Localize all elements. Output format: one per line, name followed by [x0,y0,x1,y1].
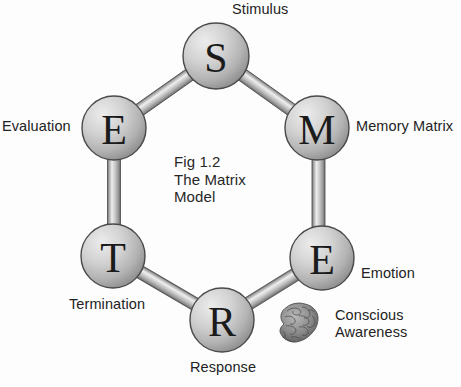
node-letter-stimulus: S [204,35,227,81]
annotation-label-awareness: Awareness [335,324,407,341]
matrix-model-diagram: S M E R T E [0,0,461,387]
node-letter-evaluation: E [101,107,127,153]
node-letter-response: R [208,299,236,345]
node-label-memory-matrix: Memory Matrix [356,118,453,135]
node-letter-memory-matrix: M [298,107,335,153]
node-response[interactable]: R [190,288,254,352]
node-stimulus[interactable]: S [183,23,249,89]
node-evaluation[interactable]: E [82,96,146,160]
node-emotion[interactable]: E [290,226,354,290]
node-termination[interactable]: T [81,224,145,288]
brain-icon [280,303,318,342]
node-letter-termination: T [100,235,126,281]
node-label-response: Response [190,359,256,376]
node-label-emotion: Emotion [361,265,415,282]
node-label-evaluation: Evaluation [2,118,71,135]
node-label-stimulus: Stimulus [232,1,288,18]
node-label-termination: Termination [69,296,145,313]
node-memory-matrix[interactable]: M [285,96,349,160]
figure-caption: Fig 1.2 The Matrix Model [174,153,246,206]
annotation-label-conscious: Conscious [335,307,404,324]
node-letter-emotion: E [309,237,335,283]
